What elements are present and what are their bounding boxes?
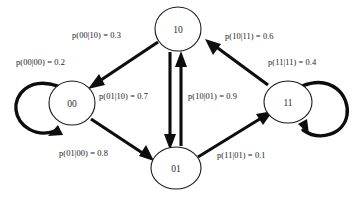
state-transition-diagram: 10 00 11 01 p(00|00) = 0.2 p(00|10) = 0.… (0, 0, 361, 197)
edge-01-to-10 (175, 51, 187, 146)
edge-label-p-11-given-11: p(11|11) = 0.4 (268, 58, 316, 67)
edge-label-p-10-given-01: p(10|01) = 0.9 (188, 92, 237, 101)
node-00[interactable]: 00 (49, 81, 95, 125)
node-11[interactable]: 11 (264, 81, 312, 123)
self-loop-00-arrowhead (48, 125, 63, 136)
node-01[interactable]: 01 (151, 147, 201, 189)
edge-label-p-11-given-01: p(11|01) = 0.1 (217, 151, 266, 160)
node-00-label: 00 (67, 99, 77, 109)
edge-10-to-01 (164, 52, 176, 150)
edge-label-p-01-given-10: p(01|10) = 0.7 (99, 92, 148, 101)
edge-11-to-10-arrowhead (205, 39, 221, 55)
edge-10-to-00-line (98, 42, 158, 82)
edge-label-p-01-given-00: p(01|00) = 0.8 (59, 149, 108, 158)
node-11-label: 11 (283, 98, 292, 108)
edge-10-to-00 (88, 42, 158, 89)
edge-label-p-00-given-00: p(00|00) = 0.2 (16, 58, 65, 67)
edge-01-to-10-arrowhead (175, 51, 187, 67)
edge-10-to-00-arrowhead (88, 74, 105, 89)
node-10[interactable]: 10 (155, 7, 201, 51)
node-01-label: 01 (171, 164, 181, 174)
diagram-canvas: 10 00 11 01 (0, 0, 361, 197)
node-10-label: 10 (173, 25, 183, 35)
edge-11-to-10 (205, 39, 268, 85)
edge-label-p-10-given-11: p(10|11) = 0.6 (225, 32, 274, 41)
edge-00-to-01-arrowhead (139, 145, 154, 161)
edge-label-p-00-given-10: p(00|10) = 0.3 (72, 31, 121, 40)
edge-11-to-10-line (215, 46, 268, 85)
